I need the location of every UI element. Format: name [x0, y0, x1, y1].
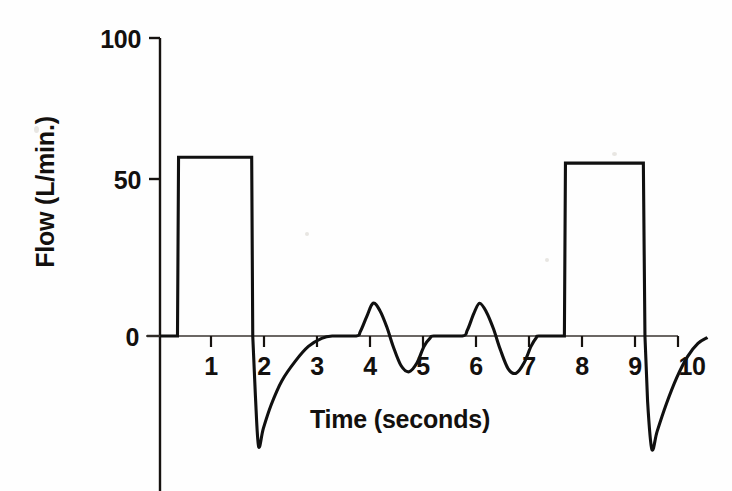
x-tick-label-1: 1: [204, 352, 218, 380]
x-tick-label-9: 9: [628, 352, 642, 380]
x-axis-title: Time (seconds): [310, 405, 490, 433]
x-tick-label-7: 7: [522, 352, 536, 380]
x-tick-label-6: 6: [469, 352, 483, 380]
x-tick-label-10: 10: [678, 352, 705, 380]
y-tick-label-0: 0: [125, 323, 139, 351]
x-tick-marks: [211, 336, 678, 347]
flow-waveform-figure: 100 50 0 1 2 3 4 5 6 7 8 9 10 Time (seco…: [0, 0, 732, 491]
y-tick-label-50: 50: [114, 166, 141, 194]
x-tick-label-3: 3: [310, 352, 324, 380]
x-tick-label-5: 5: [416, 352, 430, 380]
plot-canvas: 100 50 0 1 2 3 4 5 6 7 8 9 10 Time (seco…: [0, 0, 732, 491]
x-tick-label-8: 8: [575, 352, 589, 380]
x-tick-label-2: 2: [257, 352, 271, 380]
y-tick-label-100: 100: [100, 25, 141, 53]
x-tick-label-4: 4: [363, 352, 377, 380]
y-axis-title: Flow (L/min.): [31, 116, 59, 268]
